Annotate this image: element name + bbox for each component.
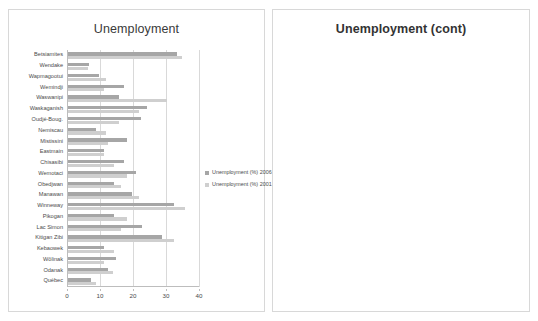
bar-2001[interactable] <box>68 153 104 156</box>
x-tick-label: 30 <box>163 292 170 299</box>
chart-title-left: Unemployment <box>9 22 264 36</box>
chart-title-right: Unemployment (cont) <box>273 22 529 36</box>
tick-mark <box>166 289 167 291</box>
bar-group: Pikogan <box>67 211 199 222</box>
category-label: Obedjwan <box>38 182 63 188</box>
screenshot-root: Unemployment BetsiamitesWendakeWapmagoot… <box>0 0 538 321</box>
category-label: Mistissini <box>40 139 63 145</box>
bar-2001[interactable] <box>68 217 127 220</box>
category-label: Betsiamites <box>34 53 63 59</box>
bar-2001[interactable] <box>68 88 104 91</box>
bar-2001[interactable] <box>68 185 121 188</box>
tick-mark <box>100 289 101 291</box>
legend-item[interactable]: Unemployment (%) 2006 <box>205 170 272 175</box>
bar-2001[interactable] <box>68 78 106 81</box>
bar-2001[interactable] <box>68 261 104 264</box>
x-tick-label: 0 <box>65 292 68 299</box>
bar-group: Odanak <box>67 265 199 276</box>
category-label: Lac Simon <box>37 225 63 231</box>
legend-item[interactable]: Unemployment (%) 2001 <box>205 182 272 187</box>
bar-group: Chisasibi <box>67 158 199 169</box>
category-label: Wôlinak <box>43 257 63 263</box>
bar-2001[interactable] <box>68 142 108 145</box>
category-label: Oudjé-Boug. <box>32 117 63 123</box>
category-label: Eastmain <box>40 149 63 155</box>
category-label: Kebaowek <box>37 246 63 252</box>
category-label: Pikogan <box>43 214 63 220</box>
x-axis-ticks-left: 010203040 <box>67 289 199 303</box>
bar-2001[interactable] <box>68 196 139 199</box>
bar-2001[interactable] <box>68 164 114 167</box>
tick-mark <box>199 289 200 291</box>
bar-group: Wendake <box>67 61 199 72</box>
bar-group: Betsiamites <box>67 50 199 61</box>
tick-mark <box>133 289 134 291</box>
bar-2001[interactable] <box>68 67 88 70</box>
category-label: Chisasibi <box>40 160 63 166</box>
plot-area-left: BetsiamitesWendakeWapmagootuiWemindjiWas… <box>67 50 199 287</box>
bar-2001[interactable] <box>68 131 106 134</box>
bar-2001[interactable] <box>68 121 119 124</box>
category-label: Québec <box>43 279 63 285</box>
chart-panel-unemployment-cont: Unemployment (cont) UmiujaqTasiujaqSallu… <box>272 9 530 312</box>
bar-group: Kitigan Zibi <box>67 233 199 244</box>
bar-2001[interactable] <box>68 282 96 285</box>
bar-2001[interactable] <box>68 110 139 113</box>
x-tick-label: 20 <box>130 292 137 299</box>
category-label: Odanak <box>43 268 63 274</box>
category-label: Wemotaci <box>38 171 63 177</box>
legend-label: Unemployment (%) 2006 <box>212 170 272 175</box>
bar-2001[interactable] <box>68 250 114 253</box>
legend-swatch-icon <box>205 183 209 187</box>
bar-2001[interactable] <box>68 56 182 59</box>
category-label: Nemiscau <box>38 128 63 134</box>
bar-group: Manawan <box>67 190 199 201</box>
chart-panel-unemployment: Unemployment BetsiamitesWendakeWapmagoot… <box>8 9 265 312</box>
bar-rows: BetsiamitesWendakeWapmagootuiWemindjiWas… <box>67 50 199 287</box>
gridline <box>199 50 200 287</box>
x-tick-label: 40 <box>196 292 203 299</box>
bar-group: Wemindji <box>67 82 199 93</box>
category-label: Kitigan Zibi <box>35 236 63 242</box>
legend-label: Unemployment (%) 2001 <box>212 182 272 187</box>
category-label: Waskaganish <box>30 106 63 112</box>
bar-group: Québec <box>67 276 199 287</box>
bar-group: Lac Simon <box>67 222 199 233</box>
category-label: Waswanipi <box>36 96 63 102</box>
bar-2001[interactable] <box>68 228 121 231</box>
bar-2001[interactable] <box>68 174 127 177</box>
bar-group: Waswanipi <box>67 93 199 104</box>
bar-2001[interactable] <box>68 239 174 242</box>
bar-group: Oudjé-Boug. <box>67 115 199 126</box>
category-label: Wendake <box>39 63 63 69</box>
tick-mark <box>67 289 68 291</box>
category-label: Wapmagootui <box>29 74 63 80</box>
legend-left: Unemployment (%) 2006Unemployment (%) 20… <box>205 170 272 195</box>
bar-group: Kebaowek <box>67 244 199 255</box>
bar-group: Winneway <box>67 201 199 212</box>
category-label: Winneway <box>37 203 63 209</box>
category-label: Manawan <box>39 193 63 199</box>
bar-group: Wapmagootui <box>67 72 199 83</box>
bar-group: Obedjwan <box>67 179 199 190</box>
bar-2001[interactable] <box>68 271 113 274</box>
bar-group: Waskaganish <box>67 104 199 115</box>
x-tick-label: 10 <box>97 292 104 299</box>
bar-2001[interactable] <box>68 207 185 210</box>
legend-swatch-icon <box>205 171 209 175</box>
bar-group: Wemotaci <box>67 168 199 179</box>
bar-group: Wôlinak <box>67 255 199 266</box>
bar-group: Nemiscau <box>67 125 199 136</box>
bar-2001[interactable] <box>68 99 167 102</box>
bar-group: Eastmain <box>67 147 199 158</box>
category-label: Wemindji <box>40 85 63 91</box>
bar-group: Mistissini <box>67 136 199 147</box>
